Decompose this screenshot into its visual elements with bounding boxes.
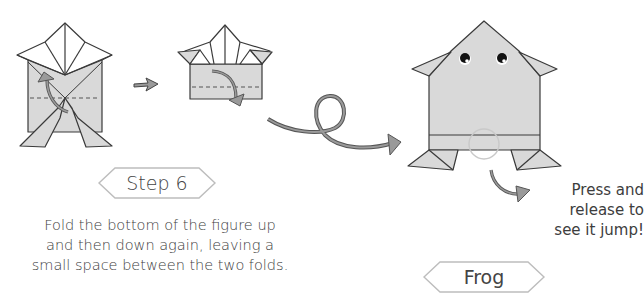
frog-eye-left <box>459 53 471 65</box>
frog-eye-right <box>496 53 508 65</box>
fold-down-diagram <box>178 25 272 106</box>
note-line: see it jump! <box>528 220 644 240</box>
result-title: Frog <box>422 260 546 294</box>
instruction-line: Fold the bottom of the figure up <box>0 215 320 235</box>
result-label: Frog <box>422 260 546 294</box>
instruction-line: and then down again, leaving a <box>0 235 320 255</box>
step-title: Step 6 <box>97 166 217 200</box>
loop-arrow-icon <box>268 96 401 155</box>
press-arrow-icon <box>491 170 530 202</box>
finished-frog <box>408 21 561 170</box>
next-arrow-icon <box>134 78 158 91</box>
press-note: Press and release to see it jump! <box>528 180 644 240</box>
step-label: Step 6 <box>97 166 217 200</box>
step-instruction: Fold the bottom of the figure up and the… <box>0 215 320 275</box>
instruction-line: small space between the two folds. <box>0 255 320 275</box>
fold-up-diagram <box>17 23 112 147</box>
note-line: Press and <box>528 180 644 200</box>
note-line: release to <box>528 200 644 220</box>
